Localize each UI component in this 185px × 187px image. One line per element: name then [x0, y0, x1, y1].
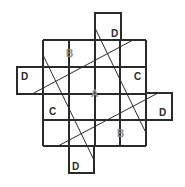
label-d: D — [111, 28, 118, 39]
label-b: B — [117, 128, 124, 139]
grid-diagram: DBDCACDBD — [0, 0, 185, 187]
label-d: D — [21, 71, 28, 82]
label-a: A — [91, 88, 98, 99]
label-d: D — [159, 107, 166, 118]
label-d: D — [72, 161, 79, 172]
label-c: C — [49, 106, 56, 117]
label-c: C — [134, 71, 141, 82]
label-b: B — [66, 48, 73, 59]
